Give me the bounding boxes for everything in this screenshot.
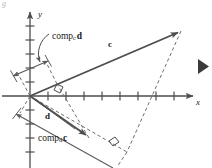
play-triangle-icon bbox=[198, 59, 209, 74]
vector-d-label: d bbox=[45, 112, 50, 121]
dashed-c-tip-to-d-line bbox=[127, 31, 181, 152]
bracket-comp-c-d bbox=[11, 55, 52, 82]
y-axis-label: y bbox=[38, 10, 42, 19]
vector-c-label: c bbox=[108, 40, 112, 49]
dashed-lower-foot-tie bbox=[117, 152, 127, 167]
leader-comp-c-d bbox=[38, 34, 49, 62]
figure-canvas bbox=[0, 0, 212, 168]
x-axis-label: x bbox=[196, 98, 200, 107]
comp-c-d-vector: d bbox=[76, 31, 82, 41]
comp-c-d-base: comp bbox=[52, 31, 73, 41]
comp-d-c-base: comp bbox=[38, 133, 59, 143]
vector-projection-figure: g y x c d compcd compdc bbox=[0, 0, 212, 168]
comp-c-d-label: compcd bbox=[52, 32, 82, 42]
comp-d-c-vector: c bbox=[62, 133, 67, 143]
vector-d-arrow bbox=[30, 96, 86, 135]
dashed-proj-upper-left bbox=[46, 62, 57, 84]
dashed-origin-to-bracket bbox=[17, 72, 30, 96]
comp-d-c-label: compdc bbox=[38, 134, 67, 144]
figure-corner-mark: g bbox=[2, 0, 6, 8]
